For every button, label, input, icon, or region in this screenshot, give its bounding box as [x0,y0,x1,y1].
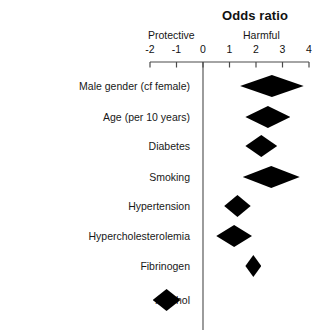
diamond-marker [240,75,304,97]
row-label-age-per-10-years: Age (per 10 years) [103,111,190,123]
diamond-marker [245,255,261,277]
row-label-smoking: Smoking [149,171,190,183]
row-label-hypercholesterolemia: Hypercholesterolemia [88,230,190,242]
axis-tick-label: 1 [220,43,240,55]
harmful-direction-label: Harmful [243,29,280,41]
protective-direction-label: Protective [148,29,195,41]
axis-tick-label: 2 [246,43,266,55]
axis-tick-label: 0 [193,43,213,55]
row-label-fibrinogen: Fibrinogen [140,260,190,272]
forest-plot-figure: Odds ratio Protective Harmful -2-101234 … [0,0,334,334]
row-label-diabetes: Diabetes [149,140,190,152]
row-label-hypertension: Hypertension [128,200,190,212]
axis-tick-label: 3 [273,43,293,55]
diamond-marker [224,195,251,217]
diamond-marker [216,225,252,247]
diamond-marker [243,166,300,188]
axis-tick-label: -2 [140,43,160,55]
diamond-marker [245,106,290,128]
diamond-marker [245,135,277,157]
page-title: Odds ratio [190,8,320,23]
axis-tick-label: 4 [299,43,319,55]
row-label-male-gender-cf-female: Male gender (cf female) [79,80,190,92]
diamond-marker [153,289,181,311]
axis-tick-label: -1 [167,43,187,55]
